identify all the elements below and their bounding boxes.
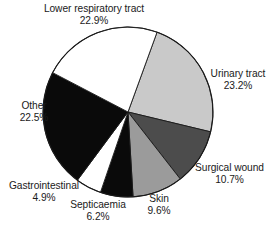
slice-value-text: 22.9% <box>26 15 162 27</box>
pie-chart-figure: Lower respiratory tract 22.9% Urinary tr… <box>0 0 271 228</box>
slice-label-urinary-tract: Urinary tract 23.2% <box>205 68 271 92</box>
slice-value-text: 23.2% <box>205 80 271 92</box>
slice-label-text: Urinary tract <box>205 68 271 80</box>
slice-label-skin: Skin 9.6% <box>137 193 181 217</box>
slice-label-text: Other <box>10 100 58 112</box>
slice-label-text: Gastrointestinal <box>1 180 87 192</box>
slice-value-text: 6.2% <box>62 211 134 223</box>
slice-label-other: Other 22.5% <box>10 100 58 124</box>
slice-label-text: Lower respiratory tract <box>26 3 162 15</box>
slice-label-lower-respiratory-tract: Lower respiratory tract 22.9% <box>26 3 162 27</box>
slice-value-text: 4.9% <box>1 192 87 204</box>
slice-label-text: Skin <box>137 193 181 205</box>
slice-label-text: Surgical wound <box>188 162 271 174</box>
slice-value-text: 10.7% <box>188 174 271 186</box>
slice-label-gastrointestinal: Gastrointestinal 4.9% <box>1 180 87 204</box>
slice-value-text: 9.6% <box>137 205 181 217</box>
slice-value-text: 22.5% <box>10 112 58 124</box>
slice-label-surgical-wound: Surgical wound 10.7% <box>188 162 271 186</box>
